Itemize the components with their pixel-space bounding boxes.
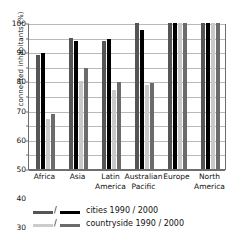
- bar-group: [95, 25, 128, 169]
- legend-label: countryside 1990 / 2000: [86, 219, 184, 228]
- bar-group: [62, 25, 95, 169]
- bar: [183, 23, 187, 169]
- legend-item: /countryside 1990 / 2000: [0, 219, 233, 232]
- bar-group: [161, 25, 194, 169]
- legend-swatch-1990: [33, 224, 53, 227]
- legend: /cities 1990 / 2000/countryside 1990 / 2…: [0, 206, 233, 232]
- bar: [168, 23, 172, 169]
- bar: [107, 39, 111, 169]
- bar: [112, 90, 116, 169]
- bar: [79, 81, 83, 169]
- legend-label: cities 1990 / 2000: [86, 206, 158, 215]
- bar-chart: connected inhabitants (%) 01020304050607…: [0, 0, 233, 241]
- bar: [140, 30, 144, 169]
- bar: [216, 23, 220, 169]
- bar: [102, 41, 106, 169]
- bar: [178, 23, 182, 169]
- bar: [46, 119, 50, 169]
- y-tick-label-80: 80: [16, 79, 26, 87]
- bar: [41, 53, 45, 169]
- x-axis-label-line: North: [187, 172, 232, 182]
- y-tick-label-60: 60: [16, 137, 26, 145]
- bar: [150, 83, 154, 169]
- legend-separator: /: [54, 219, 57, 228]
- bar-group: [194, 25, 227, 169]
- bar: [211, 23, 215, 169]
- x-axis-labels: AfricaAsiaLatinAmericaAustralianPacificE…: [28, 172, 226, 202]
- bar: [117, 82, 121, 169]
- y-tick-label-90: 90: [16, 49, 26, 57]
- x-axis-label-line: Pacific: [121, 182, 166, 192]
- legend-swatch-2000: [60, 211, 80, 214]
- x-axis-label-line: America: [187, 182, 232, 192]
- bar: [74, 41, 78, 169]
- bar: [201, 23, 205, 169]
- bar: [145, 85, 149, 169]
- y-tick-label-100: 100: [12, 20, 26, 28]
- bar: [36, 55, 40, 169]
- bar: [51, 114, 55, 169]
- bar: [69, 38, 73, 169]
- bar: [173, 23, 177, 169]
- bar-group: [128, 25, 161, 169]
- legend-separator: /: [54, 206, 57, 215]
- bar-group: [29, 25, 62, 169]
- gridline-0: 0: [29, 170, 225, 171]
- y-tick-label-70: 70: [16, 108, 26, 116]
- x-axis-label: NorthAmerica: [187, 172, 232, 191]
- legend-item: /cities 1990 / 2000: [0, 206, 233, 219]
- legend-swatch-1990: [33, 211, 53, 214]
- legend-swatch-2000: [60, 224, 80, 227]
- bar: [84, 68, 88, 169]
- bar: [135, 23, 139, 169]
- bar: [206, 23, 210, 169]
- bar-groups: [29, 25, 225, 169]
- plot-area: 0102030405060708090100: [28, 24, 226, 170]
- y-tick-label-40: 40: [16, 195, 26, 203]
